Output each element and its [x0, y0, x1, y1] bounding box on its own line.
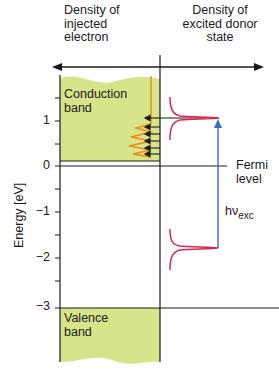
- tick-label-minus2: −2: [28, 251, 50, 264]
- arrow-up-icon: [214, 119, 222, 128]
- right-header-line: excited donor: [170, 18, 270, 32]
- exc-subscript: exc: [238, 210, 254, 221]
- y-axis-label: Energy [eV]: [12, 183, 26, 248]
- arrow-left-icon: [52, 63, 62, 71]
- tick-label-minus3: −3: [28, 300, 50, 313]
- energy-diagram: [0, 0, 279, 375]
- right-header: Density of excited donor state: [170, 4, 270, 45]
- excitation-energy-label: hνexc: [225, 205, 254, 222]
- label-line: band: [64, 326, 108, 340]
- tick-label-0: 0: [28, 159, 50, 172]
- right-header-line: state: [170, 31, 270, 45]
- hnu-text: hν: [225, 204, 238, 218]
- left-header-line: Density of: [64, 4, 120, 18]
- right-header-line: Density of: [170, 4, 270, 18]
- ground-donor-state-peak: [170, 229, 218, 270]
- label-line: band: [64, 102, 127, 116]
- fermi-level-label: Fermi level: [236, 159, 268, 186]
- valence-band-label: Valence band: [64, 312, 108, 339]
- arrow-right-icon: [254, 63, 264, 71]
- conduction-band-label: Conduction band: [64, 88, 127, 115]
- tick-label-minus1: −1: [28, 205, 50, 218]
- label-line: level: [236, 173, 268, 187]
- left-header-line: injected: [64, 18, 120, 32]
- tick-label-1: 1: [28, 114, 50, 127]
- left-header-line: electron: [64, 31, 120, 45]
- label-line: Conduction: [64, 88, 127, 102]
- label-line: Fermi: [236, 159, 268, 173]
- left-header: Density of injected electron: [64, 4, 120, 45]
- label-line: Valence: [64, 312, 108, 326]
